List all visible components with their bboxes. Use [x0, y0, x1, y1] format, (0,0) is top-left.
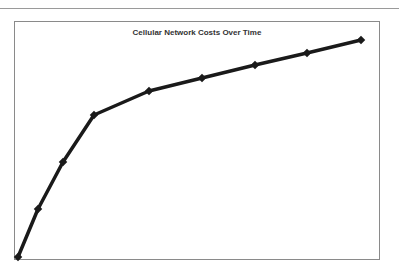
data-point-marker	[357, 36, 365, 44]
line-series-cost	[0, 0, 399, 275]
data-point-marker	[303, 49, 311, 57]
data-point-marker	[198, 74, 206, 82]
data-point-marker	[251, 61, 259, 69]
